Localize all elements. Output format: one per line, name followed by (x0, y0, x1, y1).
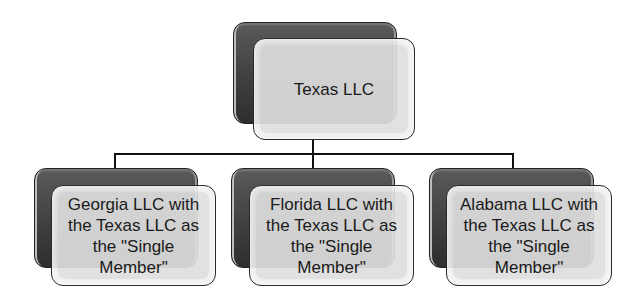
node-label: Florida LLC with the Texas LLC as the "S… (250, 194, 413, 278)
connector-horizontal (114, 153, 514, 155)
connector-right-vertical (512, 153, 514, 169)
node-box: Texas LLC (253, 38, 415, 140)
connector-left-vertical (114, 153, 116, 169)
connector-middle-vertical (312, 153, 314, 169)
node-box: Florida LLC with the Texas LLC as the "S… (249, 185, 414, 286)
node-label: Texas LLC (284, 79, 384, 100)
node-label: Georgia LLC with the Texas LLC as the "S… (52, 194, 215, 278)
node-box: Georgia LLC with the Texas LLC as the "S… (51, 185, 216, 286)
node-label: Alabama LLC with the Texas LLC as the "S… (447, 194, 611, 278)
node-box: Alabama LLC with the Texas LLC as the "S… (446, 185, 612, 286)
